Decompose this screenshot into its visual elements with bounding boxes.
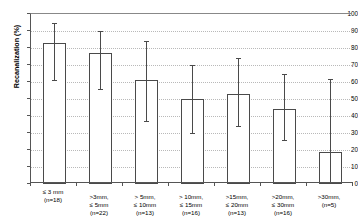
recanalization-bar-chart: Recanalization (%) 010203040506070809010… — [0, 0, 358, 222]
y-axis-title: Recanalization (%) — [12, 0, 21, 117]
error-bar-stem — [238, 58, 239, 126]
error-bar-cap-upper — [52, 23, 57, 24]
x-axis-category-label: >30mm,(n=5) — [300, 193, 358, 209]
error-bar-cap-upper — [328, 79, 333, 80]
x-axis-category-label-line: >30mm, — [300, 193, 358, 201]
error-bar-stem — [330, 79, 331, 184]
x-tick-mark — [76, 182, 77, 186]
x-tick-mark — [260, 182, 261, 186]
error-bar-cap-lower — [52, 80, 57, 81]
error-bar-cap-lower — [144, 121, 149, 122]
x-tick-mark — [352, 182, 353, 186]
error-bar-stem — [54, 23, 55, 81]
x-tick-mark — [122, 182, 123, 186]
error-bar-cap-upper — [144, 41, 149, 42]
error-bar-cap-upper — [190, 65, 195, 66]
error-bar-group — [31, 14, 352, 183]
error-bar-stem — [100, 31, 101, 89]
error-bar-stem — [284, 74, 285, 140]
x-axis-category-label-line: (n=16) — [254, 209, 312, 217]
x-tick-mark — [306, 182, 307, 186]
error-bar-stem — [192, 65, 193, 133]
x-tick-mark-origin — [30, 182, 31, 186]
error-bar-cap-upper — [98, 31, 103, 32]
error-bar-cap-upper — [236, 58, 241, 59]
error-bar-cap-lower — [190, 133, 195, 134]
x-axis-line — [30, 182, 352, 183]
error-bar-cap-lower — [282, 140, 287, 141]
error-bar-cap-lower — [236, 126, 241, 127]
error-bar-cap-upper — [282, 74, 287, 75]
x-tick-mark — [214, 182, 215, 186]
plot-area — [30, 13, 352, 183]
error-bar-stem — [146, 41, 147, 121]
error-bar-cap-lower — [98, 89, 103, 90]
x-axis-category-label-line: (n=5) — [300, 201, 358, 209]
x-tick-mark — [168, 182, 169, 186]
